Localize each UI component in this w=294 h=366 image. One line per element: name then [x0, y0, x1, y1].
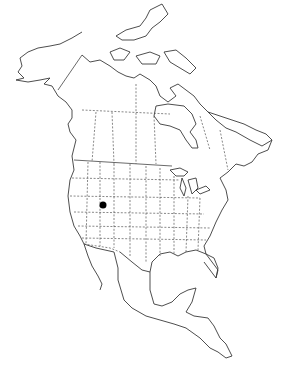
mexico-east-coast — [150, 272, 232, 356]
canada-arctic-coast — [82, 55, 272, 140]
mexico-west-coast — [84, 244, 232, 358]
alaska-canada-border — [58, 55, 82, 90]
us-mexico-border — [84, 244, 120, 252]
province-borders — [82, 84, 228, 170]
labrador-coast — [208, 112, 272, 178]
map-svg — [0, 0, 294, 366]
great-lakes — [170, 168, 210, 196]
us-canada-border — [74, 160, 172, 166]
gulf-coast — [120, 250, 218, 278]
alaska-outline — [16, 32, 82, 140]
florida — [204, 254, 218, 278]
arctic-islands — [110, 4, 196, 74]
hudson-bay — [154, 104, 198, 148]
north-america-map — [0, 0, 294, 366]
pacific-coast — [68, 140, 84, 244]
atlantic-coast — [204, 178, 228, 254]
location-marker — [100, 202, 107, 209]
state-borders — [70, 162, 210, 262]
